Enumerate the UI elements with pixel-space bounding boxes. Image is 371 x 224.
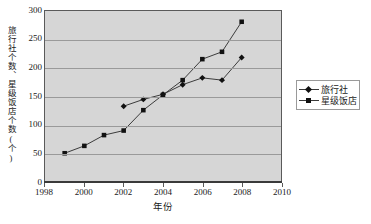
data-point-square <box>121 128 126 133</box>
data-point-square <box>102 133 107 138</box>
legend-label: 星级饭店 <box>321 96 357 106</box>
x-axis-tick-mark <box>282 183 283 187</box>
y-axis-tick-label: 0 <box>16 178 42 187</box>
legend-entry[interactable]: 旅行社 <box>299 84 356 95</box>
gridline <box>45 97 281 98</box>
legend-diamond-icon <box>299 85 319 95</box>
chart-legend: 旅行社星级饭店 <box>296 80 360 110</box>
data-point-diamond <box>199 75 205 81</box>
x-axis-tick-label: 2002 <box>103 187 143 197</box>
series-line <box>65 22 242 153</box>
y-axis-tick-label: 50 <box>16 149 42 158</box>
x-axis-tick-label: 1998 <box>24 187 64 197</box>
x-axis-tick-label: 2004 <box>143 187 183 197</box>
x-axis-tick-labels: 1998200020022004200620082010 <box>0 187 371 199</box>
data-point-square <box>200 57 205 62</box>
x-axis-tick-label: 2000 <box>64 187 104 197</box>
x-axis-tick-label: 2010 <box>262 187 302 197</box>
x-axis-title: 年份 <box>44 202 282 213</box>
x-axis-tick-mark <box>84 183 85 187</box>
x-axis-tick-mark <box>203 183 204 187</box>
legend-square-icon <box>299 96 319 106</box>
gridline <box>45 154 281 155</box>
series-layer <box>45 11 281 181</box>
data-point-square <box>239 19 244 24</box>
data-point-square <box>180 78 185 83</box>
x-axis-tick-mark <box>44 183 45 187</box>
data-point-square <box>141 108 146 113</box>
data-point-diamond <box>180 82 186 88</box>
y-axis-tick-label: 250 <box>16 34 42 43</box>
data-point-diamond <box>121 103 127 109</box>
legend-label: 旅行社 <box>321 85 348 95</box>
y-axis-tick-label: 150 <box>16 92 42 101</box>
y-axis-tick-label: 100 <box>16 120 42 129</box>
x-axis-tick-label: 2008 <box>222 187 262 197</box>
data-point-square <box>82 144 87 149</box>
legend-entry[interactable]: 星级饭店 <box>299 95 356 106</box>
x-axis-tick-mark <box>242 183 243 187</box>
gridline <box>45 126 281 127</box>
y-axis-tick-label: 200 <box>16 63 42 72</box>
plot-inner <box>45 11 281 181</box>
x-axis-tick-label: 2006 <box>183 187 223 197</box>
x-axis-tick-mark <box>163 183 164 187</box>
plot-area <box>44 10 282 182</box>
line-chart-figure: 旅行社个数、星级饭店个数(个) 050100150200250300 19982… <box>0 0 371 224</box>
x-axis-tick-mark <box>123 183 124 187</box>
data-point-square <box>220 50 225 55</box>
y-axis-title: 旅行社个数、星级饭店个数(个) <box>1 18 15 170</box>
gridline <box>45 40 281 41</box>
y-axis-tick-label: 300 <box>16 6 42 15</box>
figure-caption <box>0 219 371 224</box>
gridline <box>45 68 281 69</box>
